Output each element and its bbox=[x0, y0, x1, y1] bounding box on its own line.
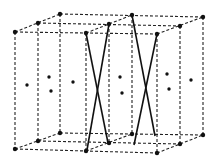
lattice-point bbox=[13, 30, 17, 34]
lattice-point bbox=[201, 133, 205, 137]
basis-point bbox=[167, 87, 170, 90]
basis-point bbox=[165, 72, 168, 75]
basis-point bbox=[47, 75, 50, 78]
cross-line bbox=[132, 15, 155, 136]
lattice-point bbox=[155, 32, 159, 36]
basis-point bbox=[49, 89, 52, 92]
lattice-point bbox=[130, 132, 134, 136]
basis-point bbox=[71, 80, 74, 83]
basis-point bbox=[189, 78, 192, 81]
basis-point bbox=[25, 83, 28, 86]
lattice-point bbox=[201, 15, 205, 19]
lattice-point bbox=[107, 141, 111, 145]
basis-point bbox=[120, 91, 123, 94]
lattice-point bbox=[155, 151, 159, 155]
lattice-point bbox=[130, 13, 134, 17]
crystal-lattice-diagram bbox=[0, 0, 217, 162]
basis-point bbox=[118, 75, 121, 78]
lattice-point bbox=[107, 22, 111, 26]
lattice-point bbox=[36, 139, 40, 143]
lattice-point bbox=[84, 149, 88, 153]
lattice-point bbox=[58, 131, 62, 135]
lattice-point bbox=[178, 24, 182, 28]
lattice-point bbox=[178, 142, 182, 146]
lattice-point bbox=[36, 21, 40, 25]
lattice-point bbox=[13, 147, 17, 151]
lattice-point bbox=[84, 31, 88, 35]
lattice-point bbox=[58, 12, 62, 16]
